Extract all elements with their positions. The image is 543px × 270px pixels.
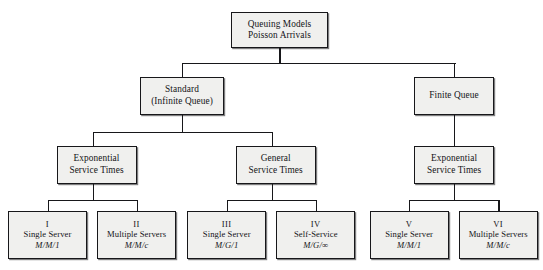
node-leaf-1-roman: I: [46, 219, 49, 229]
connector-to-leaf-6: [498, 200, 499, 211]
node-leaf-3-name: Single Server: [203, 229, 251, 239]
node-leaf-5-roman: V: [406, 219, 413, 229]
node-gen-line1: General: [261, 153, 291, 164]
node-standard-line2: (Infinite Queue): [151, 96, 213, 107]
node-leaf-6-roman: VI: [493, 219, 503, 229]
connector-to-exponential-standard: [93, 132, 94, 146]
connector-root-stem: [279, 48, 280, 63]
connector-to-leaf-2: [137, 200, 138, 211]
node-leaf-3: III Single Server M/G/1: [187, 211, 266, 259]
node-leaf-1: I Single Server M/M/1: [8, 211, 87, 259]
node-exp-fin-line2: Service Times: [427, 165, 481, 176]
node-exp-std-line2: Service Times: [69, 165, 123, 176]
node-leaf-3-kendall: M/G/1: [215, 240, 238, 250]
connector-to-finite-queue: [454, 63, 455, 77]
node-leaf-5: V Single Server M/M/1: [370, 211, 449, 259]
node-leaf-4: IV Self-Service M/G/∞: [276, 211, 355, 259]
node-root-line2: Poisson Arrivals: [248, 30, 311, 41]
connector-to-leaf-1: [48, 200, 49, 211]
connector-standard-stem: [182, 115, 183, 132]
node-leaf-6-name: Multiple Servers: [469, 229, 528, 239]
node-leaf-2-kendall: M/M/c: [125, 240, 149, 250]
node-leaf-5-name: Single Server: [385, 229, 433, 239]
scan-edge-artifact: [0, 0, 543, 7]
node-leaf-4-kendall: M/G/∞: [303, 240, 328, 250]
connector-standard-bus: [93, 132, 274, 133]
connector-to-leaf-3: [227, 200, 228, 211]
node-leaf-6: VI Multiple Servers M/M/c: [459, 211, 538, 259]
node-standard-line1: Standard: [165, 84, 199, 95]
node-leaf-4-roman: IV: [311, 219, 321, 229]
node-leaf-1-name: Single Server: [24, 229, 72, 239]
connector-to-leaf-4: [316, 200, 317, 211]
node-leaf-5-kendall: M/M/1: [397, 240, 421, 250]
node-exp-fin-line1: Exponential: [431, 153, 477, 164]
node-leaf-2: II Multiple Servers M/M/c: [97, 211, 176, 259]
connector-leaf-bus-middle: [227, 200, 318, 201]
connector-root-bus: [182, 63, 456, 64]
connector-general-stem: [272, 184, 273, 200]
queuing-models-tree-diagram: Queuing Models Poisson Arrivals Standard…: [0, 0, 543, 270]
connector-exponential-standard-stem: [93, 184, 94, 200]
connector-exponential-finite-stem: [454, 184, 455, 200]
node-exponential-service-times-standard: Exponential Service Times: [57, 146, 137, 185]
connector-to-general-standard: [272, 132, 273, 146]
connector-leaf-bus-left: [48, 200, 139, 201]
node-leaf-2-name: Multiple Servers: [107, 229, 166, 239]
connector-to-standard: [182, 63, 183, 77]
node-standard-infinite-queue: Standard (Infinite Queue): [140, 77, 224, 116]
node-leaf-6-kendall: M/M/c: [486, 240, 510, 250]
node-finite-queue: Finite Queue: [414, 77, 494, 116]
connector-to-leaf-5: [409, 200, 410, 211]
node-exponential-service-times-finite: Exponential Service Times: [414, 146, 494, 185]
node-root-line1: Queuing Models: [248, 19, 312, 30]
node-leaf-2-roman: II: [133, 219, 140, 229]
node-leaf-4-name: Self-Service: [294, 229, 338, 239]
node-root-queuing-models: Queuing Models Poisson Arrivals: [231, 12, 328, 48]
node-finite-queue-line1: Finite Queue: [429, 90, 478, 101]
connector-finite-queue-stem: [454, 115, 455, 146]
node-leaf-3-roman: III: [222, 219, 232, 229]
node-leaf-1-kendall: M/M/1: [35, 240, 59, 250]
connector-leaf-bus-right: [409, 200, 500, 201]
node-exp-std-line1: Exponential: [73, 153, 119, 164]
node-general-service-times: General Service Times: [236, 146, 316, 185]
node-gen-line2: Service Times: [249, 165, 303, 176]
